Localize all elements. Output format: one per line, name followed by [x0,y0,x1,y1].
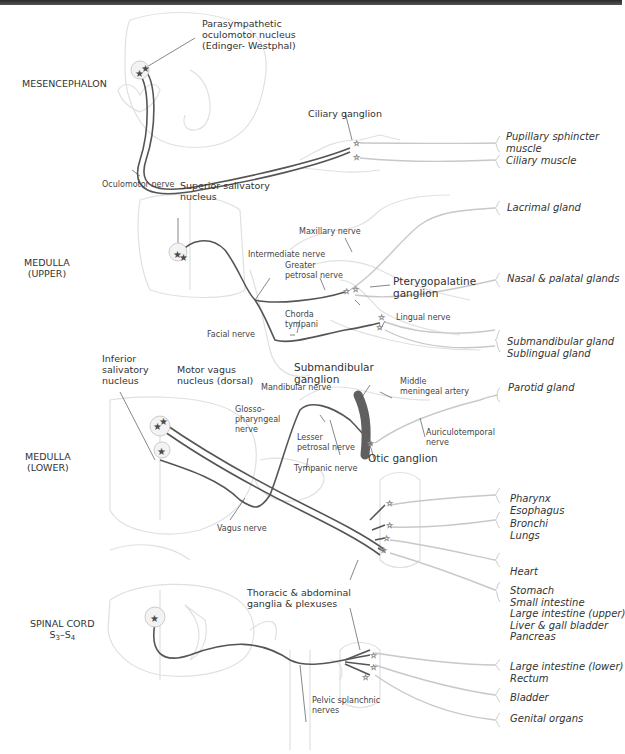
label-intermediate-nerve: Intermediate nerve [248,250,325,260]
label-lesser-petrosal-nerve: Lesserpetrosal nerve [297,433,355,453]
svg-text:★: ★ [150,613,159,624]
label-submandibular-ganglion: Submandibularganglion [294,361,374,385]
middle-meningeal-artery [358,395,366,455]
label-tympanic-nerve: Tympanic nerve [294,464,357,474]
svg-text:☆: ☆ [370,663,377,672]
target-lacrimal-gland: Lacrimal gland [507,202,581,214]
label-pelvic-splanchnic-nerves: Pelvic splanchnicnerves [312,696,380,716]
label-oculomotor-nerve: Oculomotor nerve [102,180,174,190]
label-inferior-salivatory: Inferiorsalivatorynucleus [102,353,149,386]
target-submandibular-gland: Submandibular gland [507,336,614,348]
label-facial-nerve: Facial nerve [207,330,255,340]
label-greater-petrosal-nerve: Greaterpetrosal nerve [285,261,343,281]
target-ciliary-muscle: Ciliary muscle [506,155,576,167]
target-heart: Heart [510,566,538,578]
label-ciliary-ganglion: Ciliary ganglion [308,108,382,119]
label-thoracic-abdominal-ganglia: Thoracic & abdominalganglia & plexuses [247,587,351,609]
leader-lines [120,38,425,722]
label-pterygopalatine-ganglion: Pterygopalatineganglion [393,275,476,299]
target-bronchi: Bronchi [510,518,548,530]
svg-text:☆: ☆ [353,153,360,162]
svg-text:☆: ☆ [343,287,350,296]
target-bladder: Bladder [510,692,549,704]
target-pharynx: Pharynx [510,493,551,505]
svg-text:☆: ☆ [370,651,377,660]
label-otic-ganglion: Otic ganglion [368,452,438,464]
svg-text:★: ★ [141,63,150,74]
label-chorda-tympani: Chordatympani [285,310,318,330]
svg-text:☆: ☆ [383,534,390,543]
region-spinal-cord: SPINAL CORD S3–S4 [30,618,95,644]
label-middle-meningeal-artery: Middlemeningeal artery [400,377,469,397]
svg-text:★: ★ [157,446,166,457]
svg-text:☆: ☆ [353,139,360,148]
target-large-intestine-lower: Large intestine (lower) [510,661,623,673]
svg-text:★: ★ [179,252,188,263]
svg-text:☆: ☆ [367,439,374,448]
label-vagus-nerve: Vagus nerve [217,524,267,534]
region-medulla-lower: MEDULLA(LOWER) [25,451,71,473]
target-pupillary-sphincter: Pupillary sphinctermuscle [506,131,599,155]
target-genital-organs: Genital organs [510,713,583,725]
svg-text:☆: ☆ [378,313,385,322]
target-sublingual-gland: Sublingual gland [507,348,591,360]
region-mesencephalon: MESENCEPHALON [22,78,107,89]
svg-text:☆: ☆ [362,673,369,682]
target-nasal-palatal-glands: Nasal & palatal glands [507,273,619,285]
region-medulla-upper: MEDULLA(UPPER) [24,257,70,279]
target-rectum: Rectum [510,673,549,685]
svg-text:☆: ☆ [386,499,393,508]
target-lungs: Lungs [510,530,540,542]
svg-text:☆: ☆ [380,546,387,555]
label-maxillary-nerve: Maxillary nerve [299,227,361,237]
label-lingual-nerve: Lingual nerve [396,313,451,323]
label-motor-vagus: Motor vagusnucleus (dorsal) [177,364,253,386]
target-large-intestine-upper: Large intestine (upper) [510,608,625,620]
label-superior-salivatory: Superior salivatorynucleus [180,180,270,202]
target-braces [495,136,500,727]
svg-text:☆: ☆ [376,323,383,332]
label-edinger-westphal: Parasympatheticoculomotor nucleus(Edinge… [202,18,296,51]
label-auriculotemporal-nerve: Auriculotemporalnerve [426,428,495,448]
svg-text:☆: ☆ [352,285,359,294]
svg-text:☆: ☆ [386,521,393,530]
target-parotid-gland: Parotid gland [508,382,575,394]
svg-text:★: ★ [159,416,168,427]
label-glossopharyngeal-nerve: Glosso-pharyngealnerve [235,405,280,435]
target-pancreas: Pancreas [510,631,556,643]
target-esophagus: Esophagus [510,505,564,517]
target-stomach: Stomach [510,585,554,597]
